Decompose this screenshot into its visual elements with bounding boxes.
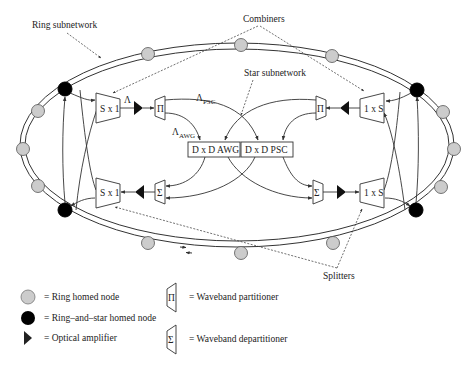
svg-text:= Optical amplifier: = Optical amplifier bbox=[44, 333, 118, 343]
svg-text:= Ring–and–star homed node: = Ring–and–star homed node bbox=[44, 313, 156, 323]
svg-text:= Waveband partitioner: = Waveband partitioner bbox=[189, 292, 279, 302]
svg-text:Π: Π bbox=[168, 293, 175, 303]
black-circle-icon bbox=[21, 311, 35, 325]
gray-circle-icon bbox=[21, 290, 35, 304]
ring-node[interactable] bbox=[17, 143, 30, 156]
ring-node[interactable] bbox=[32, 180, 45, 193]
star-node-bottom-left[interactable] bbox=[58, 203, 72, 217]
svg-text:= Waveband departitioner: = Waveband departitioner bbox=[189, 334, 288, 344]
left-star-links bbox=[63, 90, 97, 210]
splitter-bottom-right[interactable]: 1 x S bbox=[360, 178, 384, 208]
ring-node[interactable] bbox=[326, 50, 339, 63]
optical-amplifier-icon bbox=[24, 331, 32, 345]
ring-node[interactable] bbox=[435, 181, 448, 194]
ring-subnetwork-label: Ring subnetwork bbox=[32, 20, 97, 30]
star-node-top-right[interactable] bbox=[410, 83, 424, 97]
ring-node[interactable] bbox=[235, 39, 248, 52]
ring-node[interactable] bbox=[235, 247, 248, 260]
right-star-links bbox=[384, 92, 418, 210]
bottom-right-chain: Σ bbox=[313, 180, 359, 204]
optical-amplifier-icon bbox=[134, 101, 143, 115]
lambda-awg-label: ΛAWG bbox=[172, 127, 195, 140]
ring-node[interactable] bbox=[32, 105, 45, 118]
combiners-label: Combiners bbox=[243, 14, 285, 24]
legend-item-ring-homed-node: = Ring homed node bbox=[21, 290, 119, 304]
star-subnetwork-label: Star subnetwork bbox=[244, 68, 306, 78]
ring-direction-arrow-cw bbox=[180, 247, 186, 248]
svg-text:= Ring homed node: = Ring homed node bbox=[44, 292, 119, 302]
ring-node[interactable] bbox=[437, 106, 450, 119]
bottom-left-chain: Σ bbox=[121, 180, 165, 204]
top-left-chain: Λ Π bbox=[120, 95, 165, 120]
splitter-top-right[interactable]: 1 x S bbox=[360, 93, 384, 123]
psc-label: D x D PSC bbox=[245, 145, 288, 155]
combiner-top-left[interactable]: S x 1 bbox=[96, 93, 120, 123]
ring-node[interactable] bbox=[327, 237, 340, 250]
lambda-label: Λ bbox=[124, 95, 131, 105]
legend-item-ring-and-star-node: = Ring–and–star homed node bbox=[21, 311, 156, 325]
departitioner-glyph: Σ bbox=[157, 188, 163, 198]
waveband-labels: ΛPSC ΛAWG bbox=[172, 93, 216, 140]
splitter-label: 1 x S bbox=[364, 188, 384, 198]
awg-label: D x D AWG bbox=[192, 145, 239, 155]
optical-amplifier-icon bbox=[337, 185, 346, 199]
awg-block[interactable]: D x D AWG bbox=[188, 142, 240, 157]
legend-item-waveband-partitioner: Π = Waveband partitioner bbox=[167, 283, 279, 312]
splitter-label: 1 x S bbox=[364, 104, 384, 114]
ring-node[interactable] bbox=[142, 48, 155, 61]
top-right-chain: Π bbox=[316, 96, 360, 120]
ring-direction-arrow-ccw bbox=[186, 253, 192, 254]
lambda-psc-label: ΛPSC bbox=[196, 93, 216, 106]
combiner-label: S x 1 bbox=[100, 104, 120, 114]
optical-amplifier-icon bbox=[340, 101, 349, 115]
combiner-bottom-left[interactable]: S x 1 bbox=[96, 178, 120, 208]
departitioner-glyph: Σ bbox=[314, 188, 320, 198]
combiner-label: S x 1 bbox=[100, 188, 120, 198]
partitioner-glyph: Π bbox=[317, 104, 324, 114]
legend-item-optical-amplifier: = Optical amplifier bbox=[24, 331, 118, 345]
splitters-label: Splitters bbox=[323, 271, 355, 281]
star-node-bottom-right[interactable] bbox=[409, 203, 423, 217]
svg-text:Σ: Σ bbox=[168, 335, 174, 345]
ring-node[interactable] bbox=[142, 237, 155, 250]
legend-item-waveband-departitioner: Σ = Waveband departitioner bbox=[167, 325, 288, 354]
optical-amplifier-icon bbox=[135, 185, 144, 199]
psc-block[interactable]: D x D PSC bbox=[241, 142, 293, 157]
partitioner-glyph: Π bbox=[157, 104, 164, 114]
ring-node[interactable] bbox=[448, 143, 461, 156]
legend: = Ring homed node = Ring–and–star homed … bbox=[21, 283, 288, 354]
star-node-top-left[interactable] bbox=[58, 82, 72, 96]
ring-star-network-diagram: S x 1 S x 1 1 x S 1 x S Λ Π Σ Π bbox=[0, 0, 474, 366]
